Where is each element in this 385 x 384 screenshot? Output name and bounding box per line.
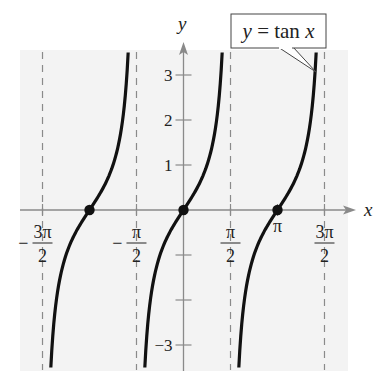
callout-label: y = tan x: [241, 19, 316, 43]
x-tick-label: π: [273, 216, 282, 236]
tan-chart: 3π2−π2−π2π3π2 321−3 y x y = tan x: [0, 0, 385, 384]
svg-text:−: −: [18, 233, 28, 253]
svg-text:2: 2: [320, 246, 329, 266]
svg-text:π: π: [273, 216, 282, 236]
y-axis-label: y: [176, 13, 187, 34]
svg-text:2: 2: [132, 246, 141, 266]
svg-text:2: 2: [38, 246, 47, 266]
x-axis-label: x: [363, 199, 373, 220]
svg-text:−: −: [112, 233, 122, 253]
svg-text:π: π: [226, 222, 235, 242]
svg-text:π: π: [132, 222, 141, 242]
zero-point: [272, 205, 282, 215]
y-tick-label: 1: [164, 156, 173, 175]
svg-text:3π: 3π: [315, 222, 333, 242]
y-tick-label: 3: [164, 66, 173, 85]
svg-text:2: 2: [226, 246, 235, 266]
zero-point: [178, 205, 188, 215]
y-tick-label: −3: [154, 336, 172, 355]
svg-text:3π: 3π: [33, 222, 51, 242]
y-tick-label: 2: [164, 111, 173, 130]
zero-point: [84, 205, 94, 215]
